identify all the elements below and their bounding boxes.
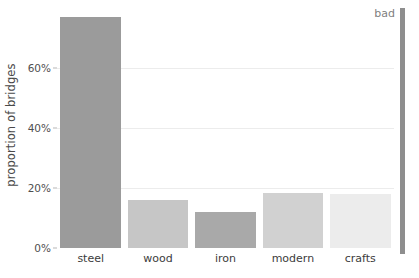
x-label-steel: steel: [57, 252, 124, 265]
y-axis-ticks: 0%20%40%60%: [20, 8, 57, 248]
y-axis-title-text: proportion of bridges: [4, 63, 18, 186]
x-label-iron: iron: [192, 252, 259, 265]
annotation-bad-label: bad: [374, 7, 395, 20]
y-tick-label: 20%: [28, 182, 51, 194]
bar-modern: [263, 193, 324, 249]
y-tick-label: 40%: [28, 122, 51, 134]
x-label-crafts: crafts: [327, 252, 394, 265]
bar-wood: [128, 200, 189, 248]
bars-group: [57, 8, 394, 248]
y-tick-label: 60%: [28, 62, 51, 74]
x-label-modern: modern: [259, 252, 326, 265]
y-axis-title: proportion of bridges: [0, 0, 22, 250]
y-tick-label: 0%: [34, 242, 51, 254]
bar-steel: [60, 17, 121, 248]
bar-chart: proportion of bridges 0%20%40%60% steelw…: [0, 0, 419, 278]
plot-area: [57, 8, 394, 248]
bar-iron: [195, 212, 256, 248]
x-label-wood: wood: [124, 252, 191, 265]
scrollbar-vertical[interactable]: [400, 8, 405, 254]
x-axis-labels: steelwoodironmoderncrafts: [57, 250, 394, 272]
bar-crafts: [330, 194, 391, 248]
